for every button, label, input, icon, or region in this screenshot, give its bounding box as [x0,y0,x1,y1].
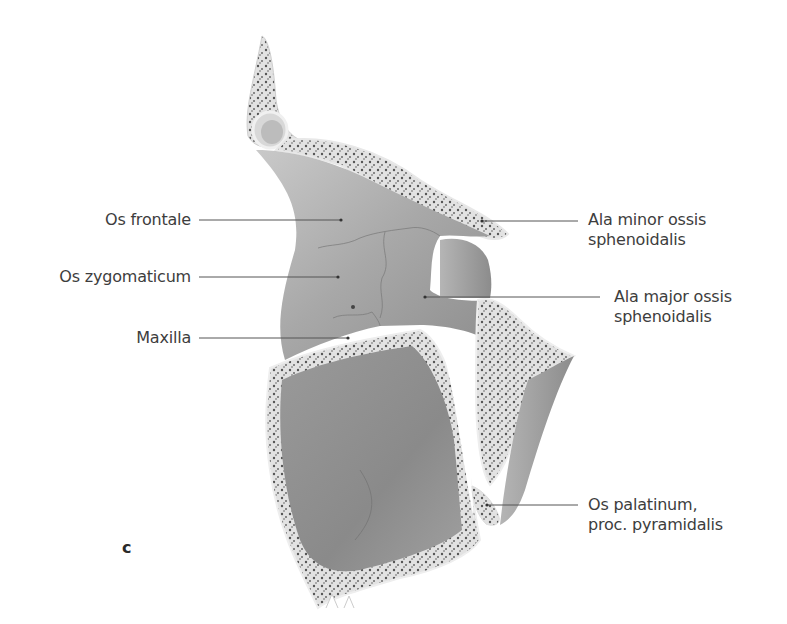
label-ala-major: Ala major ossis sphenoidalis [614,287,732,327]
maxillary-sinus [266,330,480,608]
label-os-zygomaticum: Os zygomaticum [59,267,191,287]
label-ala-minor-line1: Ala minor ossis [588,210,706,230]
label-os-palatinum-line1: Os palatinum, [588,495,723,515]
label-maxilla: Maxilla [136,328,191,348]
label-os-frontale: Os frontale [105,210,191,230]
label-os-palatinum-line2: proc. pyramidalis [588,515,723,535]
label-ala-major-line1: Ala major ossis [614,287,732,307]
label-ala-minor-line2: sphenoidalis [588,230,706,250]
panel-letter: c [122,538,131,557]
label-os-palatinum: Os palatinum, proc. pyramidalis [588,495,723,535]
label-ala-major-line2: sphenoidalis [614,307,732,327]
label-ala-minor: Ala minor ossis sphenoidalis [588,210,706,250]
